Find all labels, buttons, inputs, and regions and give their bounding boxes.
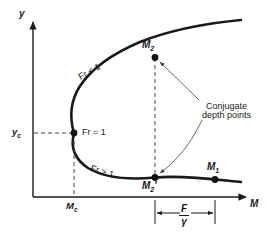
froude-critical-label: Fr = 1 bbox=[82, 128, 106, 137]
y-axis-label: y bbox=[19, 9, 25, 20]
dimension-label-f-over-gamma: F γ bbox=[179, 204, 189, 229]
point-label-m2p-prime: ′ bbox=[154, 180, 156, 191]
mc-tick-label: Mc bbox=[66, 201, 78, 214]
mc-tick-sub: c bbox=[74, 206, 78, 213]
leader-arrow-to-m2-prime bbox=[160, 120, 202, 173]
point-label-m1: M1 bbox=[207, 162, 219, 174]
point-label-m2-prime: M2′ bbox=[142, 181, 157, 193]
yc-tick-sub: c bbox=[17, 132, 21, 139]
mc-tick-base: M bbox=[66, 200, 74, 211]
leader-arrow-to-m2 bbox=[160, 62, 199, 100]
point-label-m1-sub: 1 bbox=[215, 167, 219, 174]
point-m2 bbox=[152, 54, 159, 61]
point-label-m2-sub: 2 bbox=[150, 45, 154, 52]
conjugate-depth-annotation: Conjugate depth points bbox=[202, 102, 251, 121]
dimension-denominator: γ bbox=[179, 217, 189, 227]
figure-container: y M yc Mc Fr = 1 Fr < 1 Fr > 1 M2 M2′ M1… bbox=[0, 0, 276, 235]
conjugate-annotation-line2: depth points bbox=[202, 111, 251, 120]
dimension-numerator: F bbox=[179, 204, 189, 214]
point-critical bbox=[71, 130, 78, 137]
x-axis-label: M bbox=[250, 199, 258, 210]
point-m1 bbox=[212, 176, 219, 183]
yc-tick-label: yc bbox=[12, 127, 21, 140]
point-label-m2: M2 bbox=[142, 40, 154, 52]
